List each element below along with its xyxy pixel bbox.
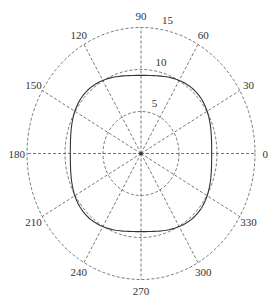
radial-label-10: 10 (155, 56, 167, 68)
angle-label-150: 150 (25, 79, 42, 91)
spoke-150 (42, 91, 141, 154)
spoke-120 (84, 44, 141, 153)
angle-label-60: 60 (198, 29, 210, 41)
angle-label-300: 300 (195, 266, 212, 278)
spoke-300 (141, 154, 198, 263)
angle-label-270: 270 (133, 285, 150, 297)
radial-label-15: 15 (162, 14, 174, 26)
angle-label-0: 0 (263, 148, 269, 160)
angle-label-90: 90 (136, 10, 148, 22)
angle-label-240: 240 (71, 266, 88, 278)
spoke-210 (42, 154, 141, 217)
origin-marker (139, 152, 142, 155)
radial-tick-labels: 51015 (152, 14, 174, 109)
angle-label-30: 30 (243, 79, 255, 91)
radial-label-5: 5 (152, 97, 158, 109)
spoke-60 (141, 44, 198, 153)
data-curve (70, 75, 211, 231)
spoke-240 (84, 154, 141, 263)
angle-label-180: 180 (8, 148, 25, 160)
angle-label-120: 120 (71, 29, 88, 41)
polar-chart: 0306090120150180210240270300330 51015 (0, 0, 269, 301)
angle-label-210: 210 (25, 216, 42, 228)
spoke-330 (141, 154, 240, 217)
angle-label-330: 330 (240, 216, 257, 228)
